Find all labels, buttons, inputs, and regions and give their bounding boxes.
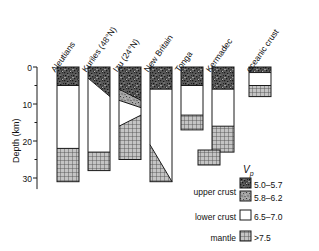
layer-upper_a [150, 67, 172, 89]
legend-value-gt-7-5: >7.5 [254, 233, 271, 243]
y-tick-label-10: 10 [14, 100, 32, 110]
kermadec-mantle-tail [198, 150, 220, 165]
column-tonga [181, 67, 203, 130]
layer-mantle [181, 115, 203, 130]
legend-swatch-6-5-7-0 [240, 210, 251, 220]
layer-mantle [212, 126, 234, 152]
legend-vp-title: Vp [243, 164, 254, 177]
layer-lower [181, 86, 203, 116]
layer-upper_a [212, 67, 234, 89]
legend-swatch-5-0-5-7 [240, 178, 251, 188]
layer-lower [249, 73, 271, 86]
legend-vp-letter: V [243, 164, 250, 175]
column-group [57, 67, 271, 182]
legend-value-5-0-5-7: 5.0–5.7 [254, 180, 282, 190]
legend-label-lower-crust: lower crust [176, 212, 236, 222]
legend-label-upper-crust: upper crust [176, 187, 236, 197]
column-kermadec [212, 67, 234, 152]
layer-mantle [57, 148, 79, 181]
y-tick-label-30: 30 [14, 174, 32, 184]
crustal-structure-figure: Depth (km) 0 10 20 30 Aleutians Kuriles … [0, 0, 319, 251]
legend-label-mantle: mantle [176, 233, 236, 243]
column-kuriles-48-n [88, 67, 110, 171]
y-tick-label-20: 20 [14, 137, 32, 147]
layer-upper_a [57, 67, 79, 86]
column-new-britain [150, 67, 172, 182]
column-izu-24-n [119, 67, 141, 160]
layer-mantle [88, 152, 110, 171]
depth-axis [33, 67, 37, 189]
legend-swatch-gt-7-5 [240, 231, 251, 241]
column-aleutians [57, 67, 79, 182]
legend-value-6-5-7-0: 6.5–7.0 [254, 212, 282, 222]
legend-vp-subscript: p [250, 170, 254, 177]
layer-lower [212, 89, 234, 126]
y-tick-label-0: 0 [14, 63, 32, 73]
layer-upper_a [181, 67, 203, 86]
legend-swatch-5-8-6-2 [240, 191, 251, 201]
legend-value-5-8-6-2: 5.8–6.2 [254, 193, 282, 203]
layer-lower [57, 86, 79, 149]
layer-mantle [249, 86, 271, 97]
